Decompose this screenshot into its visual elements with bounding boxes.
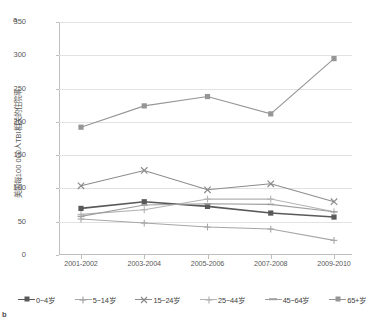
chart-figure: a 美国每100 000人TBI相关的住院率 05010015020025030…	[0, 0, 379, 324]
y-axis-tick-label: 0	[0, 251, 26, 259]
y-axis-tick-mark	[56, 255, 59, 256]
data-point-marker	[267, 226, 274, 233]
series-lines	[59, 22, 352, 255]
legend-label: 5~14岁	[93, 294, 116, 305]
x-axis-tick-label: 2009-2010	[303, 260, 365, 267]
legend-label: 45~64岁	[283, 294, 310, 305]
data-point-marker	[268, 210, 273, 215]
plot-area: 050100150200250300350 2001-20022003-2004…	[59, 22, 352, 255]
data-point-marker	[141, 220, 148, 227]
x-axis-tick-label: 2005-2006	[177, 260, 239, 267]
data-point-marker	[268, 111, 273, 116]
data-point-marker	[204, 224, 211, 231]
x-axis-tick-label: 2007-2008	[240, 260, 302, 267]
legend-label: 15~24岁	[153, 294, 180, 305]
legend-item-5~14岁[interactable]: 5~14岁	[75, 294, 116, 305]
x-axis-tick-label: 2003-2004	[113, 260, 175, 267]
data-point-marker	[205, 204, 210, 209]
legend-label: 25~44岁	[218, 294, 245, 305]
data-point-marker	[78, 206, 83, 211]
series-65+岁	[78, 56, 336, 130]
y-axis-tick-label: 250	[0, 85, 26, 93]
legend-marker-icon	[18, 295, 35, 304]
data-point-marker	[141, 206, 148, 213]
legend-item-25~44岁[interactable]: 25~44岁	[200, 294, 245, 305]
data-point-marker	[331, 199, 337, 205]
series-line	[81, 59, 334, 128]
legend-item-15~24岁[interactable]: 15~24岁	[135, 294, 180, 305]
legend-item-0~4岁[interactable]: 0~4岁	[18, 294, 55, 305]
chart-legend: 0~4岁5~14岁15~24岁25~44岁45~64岁65+岁	[18, 292, 366, 306]
y-axis-tick-label: 100	[0, 184, 26, 192]
legend-label: 65+岁	[347, 294, 366, 305]
data-point-marker	[331, 56, 336, 61]
data-point-marker	[78, 125, 83, 130]
series-5~14岁	[78, 216, 338, 244]
legend-marker-icon	[75, 295, 92, 304]
y-axis-tick-label: 300	[0, 51, 26, 59]
legend-item-65+岁[interactable]: 65+岁	[329, 294, 366, 305]
data-point-marker	[267, 196, 274, 203]
data-point-marker	[142, 199, 147, 204]
data-point-marker	[331, 237, 338, 244]
data-point-marker	[205, 94, 210, 99]
legend-marker-icon	[265, 295, 282, 304]
legend-label: 0~4岁	[36, 294, 55, 305]
y-axis-tick-label: 200	[0, 118, 26, 126]
legend-item-45~64岁[interactable]: 45~64岁	[265, 294, 310, 305]
legend-marker-icon	[329, 295, 346, 304]
panel-b-label: b	[2, 310, 7, 319]
data-point-marker	[331, 214, 336, 219]
y-axis-tick-label: 150	[0, 151, 26, 159]
legend-marker-icon	[135, 295, 152, 304]
x-axis-tick-label: 2001-2002	[50, 260, 112, 267]
y-axis-tick-label: 50	[0, 218, 26, 226]
data-point-marker	[204, 196, 211, 203]
legend-marker-icon	[200, 295, 217, 304]
data-point-marker	[142, 103, 147, 108]
y-axis-tick-label: 350	[0, 18, 26, 26]
